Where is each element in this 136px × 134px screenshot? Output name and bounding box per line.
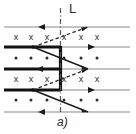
svg-text:x: x [79,32,84,42]
solid-ray-arrowheads [81,66,88,113]
field-marker-row-crosses-1: x x x x x x [14,32,100,42]
svg-text:x: x [45,74,50,84]
diagram-canvas: x x x x x x x x x x x x [0,0,136,134]
svg-text:x: x [14,32,19,42]
physics-field-diagram: x x x x x x x x x x x x [0,0,136,134]
svg-text:x: x [95,74,100,84]
boundary-label-L: L [69,2,76,15]
svg-text:x: x [79,74,84,84]
svg-text:x: x [45,32,50,42]
svg-text:x: x [29,74,34,84]
field-marker-row-crosses-2: x x x x x x [14,74,100,84]
svg-text:x: x [95,32,100,42]
svg-text:x: x [62,32,67,42]
svg-text:x: x [62,74,67,84]
svg-text:x: x [14,74,19,84]
figure-caption: a) [57,116,68,128]
svg-text:x: x [29,32,34,42]
